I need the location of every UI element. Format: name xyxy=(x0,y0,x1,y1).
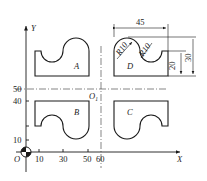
part-c-label: C xyxy=(127,107,133,117)
y-axis-label: Y xyxy=(31,23,37,33)
x-tick-label-50: 50 xyxy=(83,154,92,164)
dim-step-label: 20 xyxy=(167,62,177,71)
x-axis-label: X xyxy=(176,154,183,164)
x-tick-label-60: 60 xyxy=(96,154,105,164)
part-a-label: A xyxy=(73,61,80,71)
dim-width-label: 45 xyxy=(136,17,145,27)
radius-label-2: R10 xyxy=(136,41,153,59)
part-b-outline xyxy=(35,101,89,139)
center-point-label: O1 xyxy=(89,91,98,102)
part-b-label: B xyxy=(74,107,79,117)
x-tick-label-10: 10 xyxy=(35,154,44,164)
dim-total-label: 30 xyxy=(183,54,193,63)
coordinate-axes xyxy=(16,26,180,172)
y-tick-label-40: 40 xyxy=(13,96,22,106)
part-c-outline xyxy=(114,101,168,139)
drawing-canvas: Y X O 10 30 50 60 10 40 50 O1 A B C D 45… xyxy=(0,0,207,181)
part-d-label: D xyxy=(126,61,134,71)
y-tick-label-10: 10 xyxy=(13,135,22,145)
origin-datum-icon xyxy=(21,147,31,157)
part-a-outline xyxy=(35,38,89,76)
y-tick-label-50: 50 xyxy=(13,84,22,94)
x-tick-label-30: 30 xyxy=(59,154,68,164)
radius-label-1: R10 xyxy=(113,40,130,58)
origin-label: O xyxy=(14,154,20,164)
